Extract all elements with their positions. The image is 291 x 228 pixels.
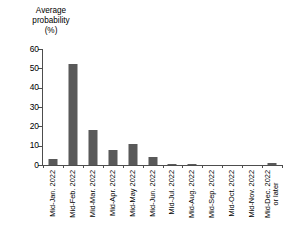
- x-axis-labels: Mid-Jan. 2022Mid-Feb. 2022Mid-Mar. 2022M…: [42, 170, 282, 228]
- bar-slot: [143, 49, 163, 165]
- bar[interactable]: [88, 130, 97, 165]
- x-label-line-2: or later: [272, 170, 280, 218]
- y-tick-label: 30: [30, 102, 39, 112]
- bar[interactable]: [68, 64, 77, 165]
- x-tick-mark: [143, 165, 144, 168]
- bar-chart: Average probability (%) 0102030405060 Mi…: [0, 0, 291, 228]
- x-label-slot: Mid-Nov. 2022: [242, 170, 262, 228]
- x-axis-tick-label: Mid-Jul. 2022: [168, 170, 176, 214]
- x-axis-tick-label: Mid-Nov. 2022: [248, 170, 256, 218]
- x-label-line-1: Mid-Aug. 2022: [187, 170, 196, 218]
- x-tick-mark: [63, 165, 64, 168]
- y-tick-label: 0: [34, 160, 39, 170]
- x-label-line-1: Mid-Oct. 2022: [227, 170, 236, 216]
- x-label-line-1: Mid-Sep. 2022: [207, 170, 216, 218]
- bar-slot: [123, 49, 143, 165]
- x-label-slot: Mid-Jan. 2022: [43, 170, 63, 228]
- x-tick-mark: [83, 165, 84, 168]
- x-label-slot: Mid-Aug. 2022: [182, 170, 202, 228]
- x-tick-mark: [202, 165, 203, 168]
- x-axis-tick-label: Mid-Aug. 2022: [188, 170, 196, 218]
- bar-slot: [43, 49, 63, 165]
- x-axis-tick-label: Mid-Sep. 2022: [208, 170, 216, 218]
- x-label-line-1: Mid-Feb. 2022: [68, 170, 77, 218]
- y-tick-label: 50: [30, 63, 39, 73]
- x-label-slot: Mid-Apr. 2022: [103, 170, 123, 228]
- x-axis-tick-label: Mid-May 2022: [128, 170, 136, 217]
- x-label-slot: Mid-Feb. 2022: [63, 170, 83, 228]
- bar-slot: [242, 49, 262, 165]
- x-label-slot: Mid-Jun. 2022: [143, 170, 163, 228]
- y-axis-title-line-1: Average: [8, 6, 94, 16]
- bar[interactable]: [188, 164, 197, 165]
- x-label-line-1: Mid-Jul. 2022: [167, 170, 176, 214]
- bar[interactable]: [128, 144, 137, 165]
- bar[interactable]: [268, 163, 277, 165]
- x-label-slot: Mid-Sep. 2022: [202, 170, 222, 228]
- bar-slot: [63, 49, 83, 165]
- x-label-line-1: Mid-Jan. 2022: [48, 170, 57, 217]
- bar-slot: [83, 49, 103, 165]
- x-label-line-1: Mid-Jun. 2022: [147, 170, 156, 217]
- x-tick-mark: [262, 165, 263, 168]
- y-axis-title: Average probability (%): [8, 6, 94, 37]
- x-label-line-1: Mid-Nov. 2022: [247, 170, 256, 218]
- x-label-line-1: Mid-May 2022: [127, 170, 136, 217]
- x-axis-tick-label: Mid-Oct. 2022: [228, 170, 236, 216]
- x-label-slot: Mid-Oct. 2022: [222, 170, 242, 228]
- bar[interactable]: [48, 159, 57, 165]
- x-label-slot: Mid-Mar. 2022: [83, 170, 103, 228]
- x-axis-tick-label: Mid-Jun. 2022: [148, 170, 156, 217]
- y-tick-label: 20: [30, 121, 39, 131]
- x-tick-mark: [163, 165, 164, 168]
- bar[interactable]: [168, 164, 177, 165]
- bar-slot: [182, 49, 202, 165]
- x-label-slot: Mid-Dec. 2022or later: [262, 170, 282, 228]
- bar-slot: [202, 49, 222, 165]
- x-axis-tick-label: Mid-Apr. 2022: [109, 170, 117, 216]
- bar-slot: [262, 49, 282, 165]
- x-label-line-1: Mid-Apr. 2022: [108, 170, 117, 216]
- x-label-line-1: Mid-Mar. 2022: [88, 170, 97, 217]
- bar[interactable]: [108, 150, 117, 165]
- x-axis-tick-label: Mid-Mar. 2022: [89, 170, 97, 217]
- x-tick-mark: [282, 165, 283, 168]
- x-tick-mark: [242, 165, 243, 168]
- y-tick-label: 10: [30, 140, 39, 150]
- y-axis-title-line-3: (%): [8, 26, 94, 36]
- plot-area: 0102030405060: [42, 49, 282, 165]
- x-tick-mark: [222, 165, 223, 168]
- y-tick-label: 40: [30, 82, 39, 92]
- bar-slot: [163, 49, 183, 165]
- bar-series: [43, 49, 282, 165]
- bar-slot: [222, 49, 242, 165]
- x-tick-mark: [182, 165, 183, 168]
- x-tick-mark: [123, 165, 124, 168]
- x-tick-mark: [103, 165, 104, 168]
- x-label-slot: Mid-May 2022: [123, 170, 143, 228]
- bar-slot: [103, 49, 123, 165]
- x-axis-tick-label: Mid-Feb. 2022: [69, 170, 77, 218]
- y-axis-title-line-2: probability: [8, 16, 94, 26]
- x-axis-tick-label: Mid-Jan. 2022: [49, 170, 57, 217]
- bar[interactable]: [148, 157, 157, 165]
- x-label-slot: Mid-Jul. 2022: [163, 170, 183, 228]
- y-tick-label: 60: [30, 44, 39, 54]
- x-tick-mark: [43, 165, 44, 168]
- x-axis-tick-label: Mid-Dec. 2022or later: [264, 170, 281, 218]
